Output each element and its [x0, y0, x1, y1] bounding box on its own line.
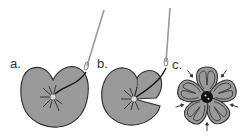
panel-c-flower [175, 67, 239, 131]
needle-a-icon [84, 10, 104, 70]
button-center-icon [201, 91, 213, 103]
needle-b-icon [164, 8, 170, 66]
panel-b-fabric [102, 68, 166, 125]
panel-a-fabric [21, 67, 88, 127]
sewing-diagram [0, 0, 247, 138]
